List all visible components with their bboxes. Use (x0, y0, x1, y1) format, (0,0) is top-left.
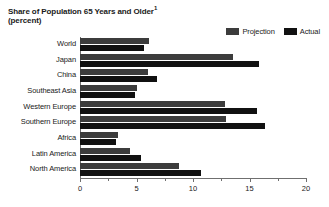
bar-group (80, 85, 306, 100)
x-tick-label: 0 (78, 184, 82, 193)
bar-actual[interactable] (80, 76, 157, 82)
chart-title: Share of Population 65 Years and Older1 (8, 5, 157, 16)
legend-item-actual[interactable]: Actual (284, 27, 320, 36)
x-tick-minor (221, 178, 222, 181)
x-tick-label: 20 (302, 184, 310, 193)
plot-area (80, 37, 306, 178)
x-tick (306, 178, 307, 182)
bar-projection[interactable] (80, 38, 149, 44)
chart-legend: Projection Actual (226, 27, 320, 36)
bar-group (80, 163, 306, 178)
x-tick (80, 178, 81, 182)
category-label: Latin America (0, 149, 76, 158)
category-label: Southeast Asia (0, 86, 76, 95)
bar-group (80, 132, 306, 147)
legend-label-projection: Projection (242, 27, 274, 36)
chart-subtitle: (percent) (8, 16, 41, 25)
bar-projection[interactable] (80, 101, 225, 107)
bar-projection[interactable] (80, 54, 233, 60)
chart-title-text: Share of Population 65 Years and Older (8, 7, 154, 16)
bar-projection[interactable] (80, 163, 179, 169)
legend-label-actual: Actual (300, 27, 320, 36)
bar-actual[interactable] (80, 155, 141, 161)
category-label: Western Europe (0, 102, 76, 111)
bar-group (80, 69, 306, 84)
x-tick-label: 15 (245, 184, 253, 193)
bar-projection[interactable] (80, 69, 148, 75)
x-tick-label: 5 (134, 184, 138, 193)
category-label: North America (0, 164, 76, 173)
x-tick (193, 178, 194, 182)
bar-group (80, 54, 306, 69)
x-tick-minor (278, 178, 279, 181)
bar-actual[interactable] (80, 139, 116, 145)
bar-projection[interactable] (80, 132, 118, 138)
chart-container: Share of Population 65 Years and Older1 … (0, 0, 329, 207)
bar-projection[interactable] (80, 116, 226, 122)
bar-projection[interactable] (80, 148, 130, 154)
x-tick (137, 178, 138, 182)
bar-group (80, 101, 306, 116)
bar-actual[interactable] (80, 61, 259, 67)
bar-actual[interactable] (80, 123, 265, 129)
category-label: World (0, 39, 76, 48)
bar-group (80, 148, 306, 163)
x-tick-minor (165, 178, 166, 181)
category-label: Africa (0, 133, 76, 142)
x-tick-minor (108, 178, 109, 181)
category-label: China (0, 70, 76, 79)
legend-item-projection[interactable]: Projection (226, 27, 274, 36)
bar-actual[interactable] (80, 170, 201, 176)
bar-projection[interactable] (80, 85, 137, 91)
bar-actual[interactable] (80, 92, 135, 98)
bar-actual[interactable] (80, 45, 144, 51)
bar-group (80, 38, 306, 53)
bar-actual[interactable] (80, 108, 257, 114)
legend-swatch-actual (284, 28, 297, 35)
category-label: Southern Europe (0, 117, 76, 126)
x-tick-label: 10 (189, 184, 197, 193)
bar-group (80, 116, 306, 131)
category-label: Japan (0, 55, 76, 64)
x-tick (250, 178, 251, 182)
legend-swatch-projection (226, 28, 239, 35)
chart-title-footnote-marker: 1 (154, 5, 157, 11)
